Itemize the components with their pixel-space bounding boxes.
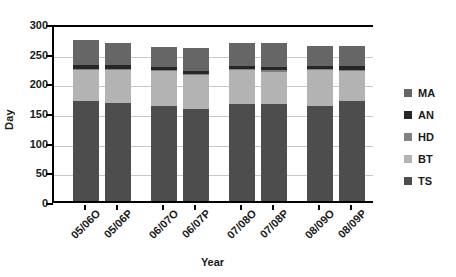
y-axis-tick-labels: 300250200150100500 bbox=[14, 19, 48, 209]
legend-item-bt[interactable]: BT bbox=[404, 148, 454, 170]
bar-segment-hd[interactable] bbox=[261, 70, 287, 71]
bar-segment-bt[interactable] bbox=[151, 71, 177, 106]
x-axis-tick-label: 05/06O bbox=[68, 207, 102, 241]
y-axis-tick-label: 100 bbox=[14, 138, 48, 150]
legend-item-an[interactable]: AN bbox=[404, 104, 454, 126]
x-axis-tick-mark bbox=[350, 205, 352, 210]
bar-stack bbox=[183, 48, 209, 201]
bar-stack bbox=[151, 47, 177, 201]
bar-segment-bt[interactable] bbox=[229, 70, 255, 104]
bar-segment-hd[interactable] bbox=[307, 69, 333, 70]
legend-item-ts[interactable]: TS bbox=[404, 170, 454, 192]
legend-swatch-icon bbox=[404, 133, 412, 141]
bar-segment-ts[interactable] bbox=[307, 106, 333, 201]
x-axis-tick-label: 05/06P bbox=[101, 207, 134, 240]
bar-segment-ma[interactable] bbox=[261, 43, 287, 67]
bar-column[interactable] bbox=[229, 43, 255, 201]
bar-segment-ts[interactable] bbox=[229, 104, 255, 201]
bar-segment-ts[interactable] bbox=[151, 106, 177, 201]
bar-segment-an[interactable] bbox=[151, 67, 177, 70]
bar-segment-ts[interactable] bbox=[261, 104, 287, 201]
bar-stack bbox=[261, 43, 287, 201]
y-axis-tick-label: 50 bbox=[14, 167, 48, 179]
bar-segment-ts[interactable] bbox=[183, 109, 209, 201]
bar-segment-ma[interactable] bbox=[307, 46, 333, 66]
bar-segment-ma[interactable] bbox=[105, 43, 131, 66]
bar-column[interactable] bbox=[151, 47, 177, 201]
bar-column[interactable] bbox=[339, 46, 365, 201]
bar-column[interactable] bbox=[261, 43, 287, 201]
bar-segment-bt[interactable] bbox=[339, 71, 365, 101]
bar-segment-hd[interactable] bbox=[229, 69, 255, 70]
stacked-bar-chart: Day 300250200150100500 05/06O05/06P06/07… bbox=[0, 0, 456, 277]
bar-segment-an[interactable] bbox=[339, 66, 365, 70]
plot-area bbox=[52, 25, 373, 203]
bar-segment-an[interactable] bbox=[229, 66, 255, 70]
bar-segment-bt[interactable] bbox=[183, 75, 209, 109]
legend-swatch-icon bbox=[404, 89, 412, 97]
bar-column[interactable] bbox=[105, 43, 131, 201]
bars-layer bbox=[54, 27, 373, 201]
legend-swatch-icon bbox=[404, 155, 412, 163]
y-axis-tick-label: 150 bbox=[14, 108, 48, 120]
bar-segment-an[interactable] bbox=[183, 71, 209, 74]
x-axis-tick-labels: 05/06O05/06P06/07O06/07P07/08O07/08P08/0… bbox=[52, 205, 373, 257]
x-axis-tick-mark bbox=[272, 205, 274, 210]
bar-segment-an[interactable] bbox=[105, 65, 131, 69]
bar-segment-an[interactable] bbox=[307, 66, 333, 70]
bar-segment-bt[interactable] bbox=[261, 72, 287, 104]
legend-label: BT bbox=[418, 154, 433, 165]
bar-segment-ma[interactable] bbox=[151, 47, 177, 67]
bar-segment-hd[interactable] bbox=[183, 74, 209, 75]
bar-column[interactable] bbox=[307, 46, 333, 201]
bar-segment-ma[interactable] bbox=[73, 40, 99, 65]
y-axis-tick-label: 0 bbox=[14, 197, 48, 209]
legend-label: MA bbox=[418, 88, 435, 99]
bar-segment-hd[interactable] bbox=[105, 69, 131, 70]
bar-segment-hd[interactable] bbox=[151, 70, 177, 71]
y-axis-tick-label: 200 bbox=[14, 78, 48, 90]
x-axis-tick-mark bbox=[116, 205, 118, 210]
x-axis-tick-mark bbox=[318, 205, 320, 210]
bar-stack bbox=[339, 46, 365, 201]
bar-segment-ts[interactable] bbox=[105, 103, 131, 201]
legend-swatch-icon bbox=[404, 111, 412, 119]
x-axis-title: Year bbox=[52, 256, 373, 268]
x-axis-tick-label: 08/09P bbox=[335, 207, 368, 240]
bar-segment-bt[interactable] bbox=[73, 70, 99, 101]
bar-segment-bt[interactable] bbox=[105, 70, 131, 103]
x-axis-tick-mark bbox=[162, 205, 164, 210]
bar-stack bbox=[73, 40, 99, 201]
bar-stack bbox=[229, 43, 255, 201]
x-axis-tick-label: 07/08O bbox=[224, 207, 258, 241]
x-axis-tick-label: 06/07P bbox=[179, 207, 212, 240]
x-axis-tick-mark bbox=[240, 205, 242, 210]
y-axis-tick-label: 250 bbox=[14, 49, 48, 61]
x-axis-tick-label: 06/07O bbox=[146, 207, 180, 241]
bar-segment-an[interactable] bbox=[73, 65, 99, 69]
legend-swatch-icon bbox=[404, 177, 412, 185]
bar-stack bbox=[307, 46, 333, 201]
bar-segment-hd[interactable] bbox=[339, 70, 365, 71]
chart-legend: MAANHDBTTS bbox=[404, 82, 454, 192]
bar-segment-an[interactable] bbox=[261, 67, 287, 71]
y-axis-tick-label: 300 bbox=[14, 19, 48, 31]
bar-segment-ts[interactable] bbox=[73, 101, 99, 201]
bar-stack bbox=[105, 43, 131, 201]
bar-segment-hd[interactable] bbox=[73, 69, 99, 70]
x-axis-tick-mark bbox=[84, 205, 86, 210]
bar-segment-ts[interactable] bbox=[339, 101, 365, 201]
legend-item-hd[interactable]: HD bbox=[404, 126, 454, 148]
bar-segment-ma[interactable] bbox=[229, 43, 255, 66]
x-axis-tick-mark bbox=[194, 205, 196, 210]
bar-column[interactable] bbox=[73, 40, 99, 201]
bar-segment-bt[interactable] bbox=[307, 70, 333, 106]
bar-segment-ma[interactable] bbox=[339, 46, 365, 67]
legend-label: HD bbox=[418, 132, 434, 143]
bar-column[interactable] bbox=[183, 48, 209, 201]
legend-label: AN bbox=[418, 110, 434, 121]
legend-item-ma[interactable]: MA bbox=[404, 82, 454, 104]
x-axis-tick-label: 07/08P bbox=[257, 207, 290, 240]
bar-segment-ma[interactable] bbox=[183, 48, 209, 71]
x-axis-tick-label: 08/09O bbox=[302, 207, 336, 241]
